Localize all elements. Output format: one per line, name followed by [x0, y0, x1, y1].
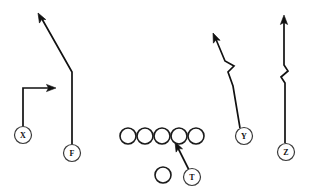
lineman-center: [154, 128, 170, 144]
route-x-line: [23, 88, 51, 126]
route-x: [23, 84, 56, 126]
split-end-x-label: X: [20, 131, 26, 140]
tailback-t-label: T: [189, 173, 195, 182]
lineman-right-guard: [171, 128, 187, 144]
flanker-f: F: [64, 145, 81, 162]
route-y-line: [215, 37, 240, 128]
route-z-line: [281, 21, 288, 143]
wide-receiver-z: Z: [278, 144, 295, 161]
play-diagram-canvas: XFTYZ: [0, 0, 313, 193]
offensive-line-layer: [120, 128, 204, 144]
tight-end-y-label: Y: [241, 132, 247, 141]
wide-receiver-z-label: Z: [283, 148, 288, 157]
lineman-left-tackle: [120, 128, 136, 144]
split-end-x: X: [15, 127, 32, 144]
tailback-t: T: [184, 169, 201, 186]
route-f-line: [42, 19, 72, 144]
backfield-back-circle: [155, 167, 171, 183]
flanker-f-label: F: [70, 149, 75, 158]
routes-layer: [23, 11, 288, 170]
route-y-arrowhead-icon: [210, 32, 220, 44]
route-y: [210, 32, 240, 128]
lineman-right-tackle: [188, 128, 204, 144]
route-t-line: [177, 146, 189, 170]
tight-end-y: Y: [236, 128, 253, 145]
route-z: [280, 15, 288, 143]
backfield-layer: [155, 167, 171, 183]
lineman-left-guard: [137, 128, 153, 144]
route-t: [172, 140, 189, 170]
football-play-diagram: XFTYZ: [0, 0, 313, 193]
route-f: [35, 11, 72, 144]
